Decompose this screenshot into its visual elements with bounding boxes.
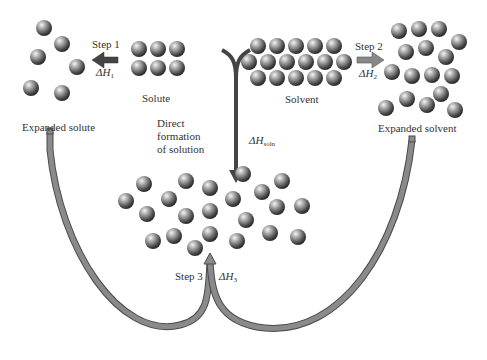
- diagram-graphics: [0, 0, 487, 360]
- delta-h1-symbol: ΔH: [96, 66, 110, 78]
- solvent-particles: [241, 38, 352, 86]
- step1-label: Step 1: [92, 38, 120, 50]
- solute-particles: [131, 41, 185, 76]
- solution-formation-diagram: Step 1 ΔH1 Solute Expanded solute Step 2…: [0, 0, 487, 360]
- delta-h3-label: ΔH3: [219, 270, 237, 284]
- delta-h1-subscript: 1: [110, 72, 114, 80]
- step2-label: Step 2: [355, 40, 383, 52]
- step2-arrow: [357, 52, 384, 68]
- delta-h3-symbol: ΔH: [219, 270, 233, 282]
- expanded-solute-particles: [23, 20, 85, 101]
- delta-hsoln-subscript: soln: [263, 140, 275, 148]
- direct-label-line3: of solution: [157, 143, 204, 155]
- delta-h3-subscript: 3: [233, 276, 237, 284]
- delta-hsoln-label: ΔHsoln: [249, 134, 275, 148]
- step3-arrow: [47, 128, 415, 328]
- direct-label-line2: formation: [157, 130, 200, 142]
- direct-formation-arrow: [222, 50, 250, 183]
- delta-h2-label: ΔH2: [359, 67, 377, 81]
- delta-h2-symbol: ΔH: [359, 67, 373, 79]
- direct-label-line1: Direct: [157, 117, 184, 129]
- step3-label: Step 3: [175, 270, 203, 282]
- delta-h2-subscript: 2: [373, 73, 377, 81]
- solution-particles: [118, 166, 310, 256]
- solute-label: Solute: [142, 92, 170, 104]
- expanded-solvent-particles: [378, 21, 467, 118]
- expanded-solute-label: Expanded solute: [22, 121, 95, 133]
- expanded-solvent-label: Expanded solvent: [378, 122, 457, 134]
- solvent-label: Solvent: [285, 93, 319, 105]
- delta-h1-label: ΔH1: [96, 66, 114, 80]
- delta-hsoln-symbol: ΔH: [249, 134, 263, 146]
